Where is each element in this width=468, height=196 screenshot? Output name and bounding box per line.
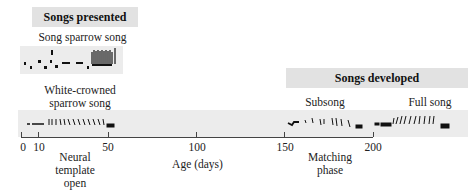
full-song-label: Full song xyxy=(400,96,460,109)
tick-label-0: 0 xyxy=(20,141,26,153)
song-sparrow-notes-icon xyxy=(20,46,123,74)
song-sparrow-label: Song sparrow song xyxy=(20,31,145,44)
tick-0 xyxy=(21,132,22,137)
tick-100 xyxy=(196,132,197,137)
axis-label: Age (days) xyxy=(150,158,245,171)
tick-200 xyxy=(373,132,374,137)
tick-50 xyxy=(108,132,109,137)
tick-150 xyxy=(284,132,285,137)
subsong-label: Subsong xyxy=(295,96,355,109)
songs-presented-header: Songs presented xyxy=(32,7,138,27)
white-crowned-label: White-crowned sparrow song xyxy=(30,84,130,110)
matching-phase-label: Matching phase xyxy=(300,151,360,177)
songs-developed-header: Songs developed xyxy=(286,68,468,88)
neural-template-label: Neural template open xyxy=(45,151,105,190)
age-axis xyxy=(21,137,373,138)
tick-label-10: 10 xyxy=(33,141,45,153)
song-learning-diagram: Songs presented Song sparrow song White-… xyxy=(0,0,468,196)
tick-label-100: 100 xyxy=(188,141,205,153)
tick-label-200: 200 xyxy=(364,141,381,153)
tick-10 xyxy=(38,132,39,137)
tick-label-150: 150 xyxy=(276,141,293,153)
song-spectrograms-icon xyxy=(18,110,468,137)
